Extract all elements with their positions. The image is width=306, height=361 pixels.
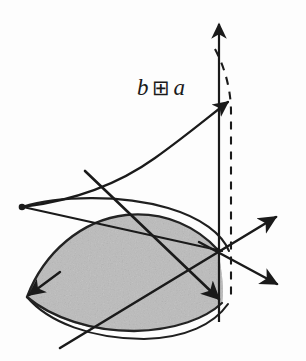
figure-canvas: b⊞a [0,0,306,361]
figure-drawing [0,0,306,361]
origin-point [216,248,220,252]
annotation-left-variable: b [137,75,149,100]
shaded-lens-region [27,214,223,331]
left-node-dot [19,204,26,211]
boxplus-icon: ⊞ [149,76,174,100]
rising-curve [23,102,228,207]
annotation-label: b⊞a [137,76,186,99]
annotation-right-variable: a [174,75,186,100]
